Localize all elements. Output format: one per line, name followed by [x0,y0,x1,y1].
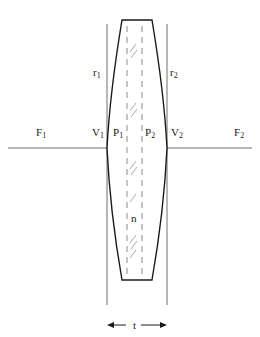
label-thickness: t [133,320,136,331]
thickness-dimension [107,322,167,328]
thick-lens-diagram [0,0,260,337]
arrowhead-left [107,322,114,328]
label-refractive-index: n [131,213,137,224]
arrowhead-right [160,322,167,328]
label-vertex-right: V2 [171,127,183,138]
label-principal-point-left: P1 [113,127,123,138]
label-principal-point-right: P2 [145,127,155,138]
label-focal-point-right: F2 [234,127,244,138]
label-focal-point-left: F1 [36,127,46,138]
label-radius-right: r2 [170,67,178,78]
label-radius-left: r1 [93,67,101,78]
label-vertex-left: V1 [92,127,104,138]
